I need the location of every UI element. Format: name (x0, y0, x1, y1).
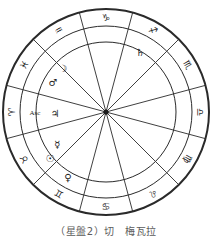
sign-glyph-virgo: ♍ (181, 153, 195, 166)
sign-boundary-line (128, 13, 132, 29)
house-boundary-line (174, 90, 189, 94)
planet-glyph-sun: ☉ (46, 153, 55, 164)
zodiac-wheel-svg: ♑♒♓♈♉♊♋♌♍♎♏♐ ♄☽♂♃☿☉♀ Asc (0, 0, 212, 236)
sign-glyph-sagittarius: ♐ (147, 23, 160, 37)
sign-glyph-taurus: ♉ (17, 153, 31, 166)
spoke-line (88, 112, 106, 180)
spoke-line (38, 112, 106, 130)
spoke-line (38, 94, 106, 112)
astrology-chart-figure: ♑♒♓♈♉♊♋♌♍♎♏♐ ♄☽♂♃☿☉♀ Asc （星盤2）切 梅瓦拉 (0, 0, 212, 236)
chart-point-ascendant: Asc (30, 109, 41, 117)
house-boundary-line (23, 130, 38, 134)
planet-glyph-moon: ☽ (59, 63, 68, 74)
sign-boundary-line (167, 173, 179, 185)
planet-glyph-jupiter: ♃ (51, 108, 60, 119)
house-boundary-line (156, 162, 167, 173)
planet-glyph-mercury: ☿ (54, 139, 60, 150)
spoke-line (106, 112, 156, 162)
house-boundary-line (84, 180, 88, 195)
sign-glyph-capricorn: ♑ (102, 12, 111, 23)
house-boundary-line (23, 90, 38, 94)
house-boundary-line (156, 51, 167, 62)
spoke-line (106, 94, 174, 112)
spoke-line (88, 44, 106, 112)
house-boundary-line (45, 51, 56, 62)
planet-glyph-venus: ♀ (64, 172, 71, 183)
sign-glyph-leo: ♌ (147, 187, 160, 201)
sign-boundary-line (128, 195, 132, 211)
spoke-line (57, 112, 107, 162)
sign-boundary-line (7, 134, 23, 138)
sign-glyph-aquarius: ♒ (52, 23, 65, 37)
house-boundary-line (84, 29, 88, 44)
house-boundary-line (124, 180, 128, 195)
sign-glyph-gemini: ♊ (52, 187, 65, 201)
chart-point-labels: Asc (30, 109, 41, 117)
figure-caption: （星盤2）切 梅瓦拉 (0, 224, 212, 236)
sign-glyph-aries: ♈ (6, 107, 17, 116)
sign-boundary-line (189, 85, 205, 89)
spoke-line (106, 44, 124, 112)
sign-boundary-line (7, 85, 23, 89)
caption-bar: （星盤2）切 梅瓦拉 (0, 224, 212, 236)
sign-glyph-libra: ♎ (195, 108, 206, 117)
sign-boundary-line (79, 195, 83, 211)
house-boundary-line (174, 130, 189, 134)
sign-boundary-line (79, 13, 83, 29)
planet-glyph-mars: ♂ (49, 77, 58, 88)
sign-boundary-line (167, 39, 179, 51)
wheel-center-point (103, 109, 108, 114)
spoke-line (106, 63, 156, 113)
sign-boundary-line (33, 173, 45, 185)
sign-glyph-scorpio: ♏ (181, 58, 195, 71)
house-boundary-line (124, 29, 128, 44)
sign-boundary-line (189, 134, 205, 138)
spoke-line (106, 112, 174, 130)
sign-boundary-line (33, 39, 45, 51)
sign-glyph-cancer: ♋ (102, 201, 111, 212)
planet-glyph-saturn: ♄ (136, 47, 145, 58)
spoke-line (106, 112, 124, 180)
sign-glyph-pisces: ♓ (17, 58, 31, 71)
